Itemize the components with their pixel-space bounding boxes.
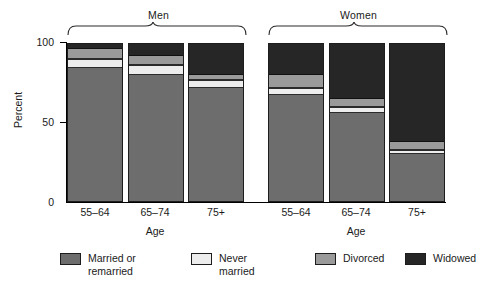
bar-segment-never — [128, 65, 184, 75]
legend-item-widowed[interactable]: Widowed — [405, 252, 476, 265]
legend-label-widowed: Widowed — [433, 252, 476, 265]
bar-segment-divorced — [67, 49, 123, 59]
y-tick-label-0: 0 — [20, 196, 54, 208]
bar-segment-never — [389, 150, 445, 155]
bar-segment-divorced — [128, 56, 184, 66]
bar-women-55-64 — [268, 43, 324, 202]
x-axis-line — [66, 202, 446, 203]
x-tick-label-men-75plus: 75+ — [181, 206, 251, 218]
x-tick-label-women-75plus: 75+ — [382, 206, 452, 218]
legend-item-divorced[interactable]: Divorced — [315, 252, 384, 265]
bar-segment-widowed — [268, 43, 324, 75]
legend-label-never: Never married — [219, 252, 255, 277]
bar-segment-married — [329, 113, 385, 202]
y-tick-100 — [60, 42, 66, 43]
bar-men-65-74 — [128, 43, 184, 202]
y-axis-title: Percent — [12, 70, 24, 150]
legend-item-married[interactable]: Married or remarried — [60, 252, 136, 277]
y-tick-label-100: 100 — [20, 36, 54, 48]
stacked-bar-chart: Men Women 100 50 0 Percent 55–64 65–74 7… — [0, 0, 498, 289]
y-tick-label-50: 50 — [20, 116, 54, 128]
x-axis-title-women: Age — [321, 225, 391, 237]
legend-swatch-divorced — [315, 253, 336, 265]
bar-segment-married — [67, 68, 123, 202]
chart-legend: Married or remarriedNever marriedDivorce… — [60, 252, 460, 278]
bar-segment-never — [268, 88, 324, 96]
bar-segment-married — [128, 75, 184, 202]
bar-segment-divorced — [268, 75, 324, 88]
bar-segment-divorced — [389, 142, 445, 150]
legend-label-married: Married or remarried — [88, 252, 136, 277]
brace-women — [268, 22, 448, 36]
bar-women-65-74 — [329, 43, 385, 202]
bar-segment-married — [188, 88, 244, 202]
bar-segment-widowed — [128, 43, 184, 56]
bar-men-75+ — [188, 43, 244, 202]
bar-segment-divorced — [329, 99, 385, 107]
brace-men — [67, 22, 247, 36]
plot-area — [67, 43, 445, 202]
x-tick-label-women-65-74: 65–74 — [321, 206, 391, 218]
legend-item-never[interactable]: Never married — [191, 252, 255, 277]
bar-segment-never — [188, 80, 244, 88]
x-tick-label-men-65-74: 65–74 — [120, 206, 190, 218]
group-label-women: Women — [340, 9, 377, 21]
legend-swatch-never — [191, 253, 212, 265]
legend-label-divorced: Divorced — [343, 252, 384, 265]
y-tick-50 — [60, 122, 66, 123]
x-axis-title-men: Age — [120, 225, 190, 237]
legend-swatch-widowed — [405, 253, 426, 265]
bar-segment-widowed — [188, 43, 244, 75]
group-label-men: Men — [148, 9, 169, 21]
bar-segment-widowed — [329, 43, 385, 99]
bar-segment-widowed — [67, 43, 123, 49]
bar-women-75+ — [389, 43, 445, 202]
bar-men-55-64 — [67, 43, 123, 202]
legend-swatch-married — [60, 253, 81, 265]
bar-segment-never — [67, 59, 123, 69]
bar-segment-widowed — [389, 43, 445, 142]
bar-segment-divorced — [188, 75, 244, 80]
bar-segment-married — [389, 154, 445, 202]
bar-segment-never — [329, 107, 385, 113]
bar-segment-married — [268, 95, 324, 202]
